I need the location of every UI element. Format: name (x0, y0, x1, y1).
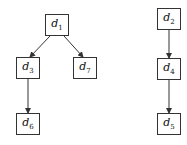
edge-d1-d3 (30, 36, 50, 57)
node-d4: d4 (157, 58, 181, 80)
node-d2: d2 (157, 8, 181, 30)
node-label: d7 (79, 60, 91, 75)
edge-d1-d7 (64, 36, 83, 57)
diagram-canvas: d1 d3 d7 d6 d2 d4 d5 (0, 0, 187, 145)
node-label: d6 (22, 116, 34, 131)
node-d6: d6 (16, 113, 40, 135)
node-label: d2 (163, 11, 175, 26)
node-label: d3 (22, 60, 34, 75)
node-label: d4 (163, 61, 175, 76)
node-label: d5 (163, 116, 175, 131)
node-d1: d1 (45, 14, 69, 36)
node-label: d1 (51, 17, 63, 32)
node-d7: d7 (73, 57, 97, 79)
node-d3: d3 (16, 57, 40, 79)
node-d5: d5 (157, 113, 181, 135)
